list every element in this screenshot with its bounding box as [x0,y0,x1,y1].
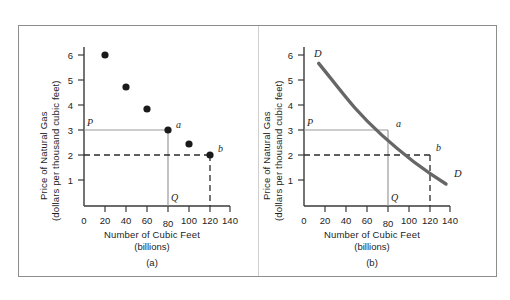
y-tick-2: 2 [68,150,73,161]
panel-a-guide-solid [84,130,168,206]
label-point-a: a [176,119,181,130]
x-tick-100: 100 [181,215,197,226]
y-tick-3: 3 [288,125,293,136]
x-tick-20: 20 [320,215,331,226]
data-point [185,140,192,147]
panel-a-guide-dashed [84,155,210,206]
panel-b-y-ticks: 6 5 4 3 2 1 [288,50,304,186]
panel-a-x-ticks: 0 20 40 60 80 100 120 140 [81,206,238,229]
label-D-top: D [313,48,322,59]
data-point [101,51,108,58]
data-point [143,105,150,112]
label-P: P [306,117,313,128]
x-tick-80: 80 [163,218,174,229]
panel-b-x-ticks: 0 20 40 60 80 100 120 140 [301,206,458,229]
y-tick-6: 6 [68,50,73,61]
x-tick-120: 120 [202,215,218,226]
x-axis-label-line2: (billions) [32,241,272,252]
y-axis-label-line2: (dollars per thousand cubic feet) [273,80,284,221]
x-tick-140: 140 [442,215,458,226]
y-axis-label-line2: (dollars per thousand cubic feet) [50,80,61,221]
label-point-b: b [436,142,441,153]
panel-a-data-points [101,51,213,158]
x-tick-100: 100 [401,215,417,226]
x-tick-0: 0 [301,215,306,226]
data-point [122,83,129,90]
x-tick-40: 40 [121,215,132,226]
x-tick-60: 60 [142,215,153,226]
label-point-b: b [218,143,223,154]
x-tick-80: 80 [383,218,394,229]
x-tick-0: 0 [81,215,86,226]
y-tick-6: 6 [288,50,293,61]
label-P: P [86,117,93,128]
y-tick-5: 5 [288,75,293,86]
x-tick-120: 120 [422,215,438,226]
y-tick-5: 5 [68,75,73,86]
data-point-a [164,126,171,133]
label-D-bottom: D [453,168,462,179]
label-point-a: a [396,118,401,129]
y-axis-label-line1: Price of Natural Gas [38,111,49,200]
y-tick-3: 3 [68,125,73,136]
data-point-b [206,151,213,158]
figure-root: 6 5 4 3 2 1 0 20 40 60 80 1 [0,0,510,300]
x-axis-label-line1: Number of Cubic Feet [252,229,492,240]
y-tick-4: 4 [68,100,73,111]
panel-a-y-ticks: 6 5 4 3 2 1 [68,50,84,186]
x-tick-140: 140 [222,215,238,226]
x-tick-60: 60 [362,215,373,226]
y-tick-4: 4 [288,100,293,111]
panel-b: 6 5 4 3 2 1 0 20 40 60 80 100 [258,25,498,277]
x-axis-label-line1: Number of Cubic Feet [32,229,272,240]
panel-a: 6 5 4 3 2 1 0 20 40 60 80 1 [18,25,258,277]
panel-b-guide-dashed [304,155,430,206]
panel-a-caption: (a) [32,257,272,268]
x-tick-40: 40 [341,215,352,226]
y-tick-1: 1 [68,175,73,186]
panel-a-axes [84,47,230,206]
y-tick-1: 1 [288,175,293,186]
y-tick-2: 2 [288,150,293,161]
x-tick-20: 20 [100,215,111,226]
panel-b-caption: (b) [252,257,492,268]
demand-curve [319,63,446,184]
x-axis-label-line2: (billions) [252,241,492,252]
panel-b-guide-solid [304,130,388,206]
label-Q: Q [171,192,179,203]
y-axis-label-line1: Price of Natural Gas [261,111,272,200]
label-Q: Q [391,192,399,203]
